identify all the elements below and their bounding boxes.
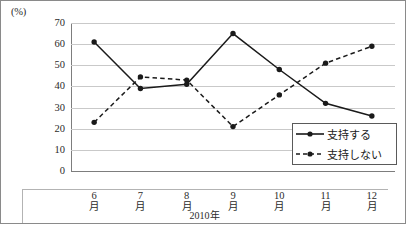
- y-axis-tick-label: 30: [29, 103, 65, 114]
- chart-legend: 支持する 支持しない: [292, 123, 397, 165]
- legend-item-oppose: 支持しない: [293, 144, 396, 164]
- legend-dashed-line-icon: [293, 144, 327, 164]
- legend-item-support: 支持する: [293, 124, 396, 144]
- gridline: [71, 65, 395, 66]
- legend-solid-line-icon: [293, 124, 327, 144]
- gridline: [71, 23, 395, 24]
- y-axis-tick-label: 20: [29, 124, 65, 135]
- legend-label-support: 支持する: [327, 126, 371, 142]
- y-axis-tick-label: 0: [29, 166, 65, 177]
- gridline: [71, 44, 395, 45]
- gridline: [71, 171, 395, 172]
- legend-label-oppose: 支持しない: [327, 146, 382, 162]
- y-axis-tick-label: 70: [29, 18, 65, 29]
- y-axis-tick-label: 60: [29, 39, 65, 50]
- x-axis-separator-line: [22, 189, 388, 190]
- y-axis-tick-label: 10: [29, 145, 65, 156]
- y-axis-unit-label: (%): [11, 6, 26, 17]
- y-axis-tick-label: 40: [29, 81, 65, 92]
- x-axis-title: 2010年: [1, 207, 407, 222]
- gridline: [71, 108, 395, 109]
- y-axis-tick-label: 50: [29, 60, 65, 71]
- gridline: [71, 86, 395, 87]
- chart-frame: (%) 010203040506070 6月7月8月9月10月11月12月 20…: [0, 0, 406, 224]
